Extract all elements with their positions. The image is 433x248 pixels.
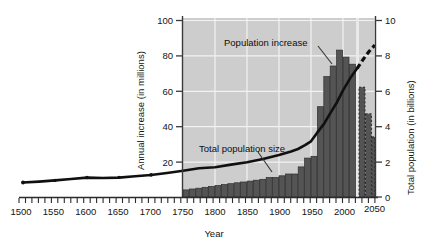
bar <box>317 107 323 197</box>
ytick-label: 100 <box>157 15 173 26</box>
bar <box>189 189 195 197</box>
bar <box>330 66 336 197</box>
ytick-label: 80 <box>162 50 173 61</box>
xtick-label: 1600 <box>75 206 96 217</box>
line-marker <box>85 176 88 179</box>
xtick-label: 2000 <box>334 206 355 217</box>
line-marker <box>53 179 56 182</box>
y-axis-label: Annual increase (in millions) <box>135 51 146 170</box>
bar <box>247 181 253 197</box>
ticks-left-axis <box>176 21 182 163</box>
xtick-label: 1650 <box>108 206 129 217</box>
chart-canvas: 100 80 60 40 20 10 8 6 4 2 0 1500 1550 1… <box>0 0 433 248</box>
bar <box>292 174 298 197</box>
ticks-right-axis <box>376 21 382 198</box>
ticks-x-minor <box>19 198 375 203</box>
y2tick-label: 2 <box>385 157 390 168</box>
xtick-label: 1700 <box>140 206 161 217</box>
line-marker <box>21 181 25 185</box>
bar <box>253 180 259 197</box>
xtick-label: 1950 <box>302 206 323 217</box>
bar <box>221 185 227 197</box>
annotation-population-increase: Population increase <box>224 37 307 48</box>
bar-projected <box>372 137 375 197</box>
bar <box>343 57 349 197</box>
bar-projected <box>365 114 371 197</box>
line-marker <box>117 176 120 179</box>
xtick-label: 1750 <box>172 206 193 217</box>
bar <box>183 190 189 197</box>
bar <box>241 182 247 197</box>
bar <box>273 178 279 198</box>
bar <box>209 186 215 197</box>
bar <box>298 167 304 197</box>
y2-axis-label: Total population (in billions) <box>405 80 416 195</box>
bar <box>260 179 266 197</box>
y2tick-label: 8 <box>385 50 390 61</box>
bar <box>215 186 221 198</box>
bar <box>202 187 208 197</box>
bar <box>266 178 272 198</box>
y2tick-label: 0 <box>385 192 390 203</box>
bar-projected <box>359 87 365 197</box>
bar <box>285 174 291 197</box>
bar <box>279 176 285 197</box>
xtick-label: 1900 <box>269 206 290 217</box>
ytick-label: 60 <box>162 86 173 97</box>
y2tick-label: 6 <box>385 86 390 97</box>
xtick-labels: 1500 1550 1600 1650 1700 1750 1800 1850 … <box>10 203 385 217</box>
xtick-label: 1850 <box>237 206 258 217</box>
bar <box>228 184 234 197</box>
bar <box>196 188 202 197</box>
bar <box>234 183 240 197</box>
bar <box>324 77 330 197</box>
bar <box>349 64 355 197</box>
xtick-label: 1550 <box>43 206 64 217</box>
ytick-labels-right: 10 8 6 4 2 0 <box>385 15 396 203</box>
bar <box>311 156 317 197</box>
xtick-label: 2050 <box>364 203 385 214</box>
bar <box>337 50 343 197</box>
ytick-label: 20 <box>162 157 173 168</box>
xtick-label: 1800 <box>205 206 226 217</box>
line-marker <box>149 173 153 177</box>
y2tick-label: 4 <box>385 121 390 132</box>
ytick-label: 40 <box>162 121 173 132</box>
bar <box>305 158 311 197</box>
xtick-label: 1500 <box>10 206 31 217</box>
population-growth-chart: 100 80 60 40 20 10 8 6 4 2 0 1500 1550 1… <box>0 0 433 248</box>
ytick-labels-left: 100 80 60 40 20 <box>157 15 173 168</box>
annotation-total-population-size: Total population size <box>199 143 285 154</box>
x-axis-label: Year <box>204 228 223 239</box>
y2tick-label: 10 <box>385 15 396 26</box>
